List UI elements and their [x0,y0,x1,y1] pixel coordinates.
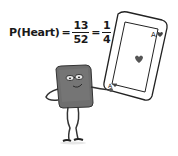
ace-of-hearts-card: A A [104,12,167,100]
illustration: P(Heart) = 13 52 = 1 4 A A [0,0,178,156]
card-rank-top: A [151,31,156,39]
card-character-drawing: A A [0,0,178,156]
card-character [46,65,113,145]
